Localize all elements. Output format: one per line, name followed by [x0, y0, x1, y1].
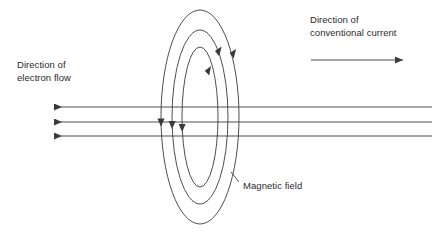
wire-lines	[54, 107, 432, 136]
field-arrow-middle-up-icon	[215, 47, 222, 57]
diagram-canvas: Direction of electron flow Direction of …	[0, 0, 441, 237]
label-magnetic-field: Magnetic field	[243, 180, 302, 193]
field-arrow-outer-down-icon	[157, 119, 164, 127]
magnetic-field-lines	[161, 10, 239, 224]
field-direction-arrows-up	[205, 47, 236, 76]
field-line-outer	[161, 10, 239, 224]
field-line-inner	[182, 47, 218, 187]
label-electron-flow: Direction of electron flow	[17, 59, 71, 84]
field-arrow-inner-down-icon	[179, 124, 186, 132]
field-arrow-inner-up-icon	[205, 66, 211, 76]
label-conventional-current: Direction of conventional current	[310, 14, 397, 39]
field-line-middle	[172, 30, 228, 204]
